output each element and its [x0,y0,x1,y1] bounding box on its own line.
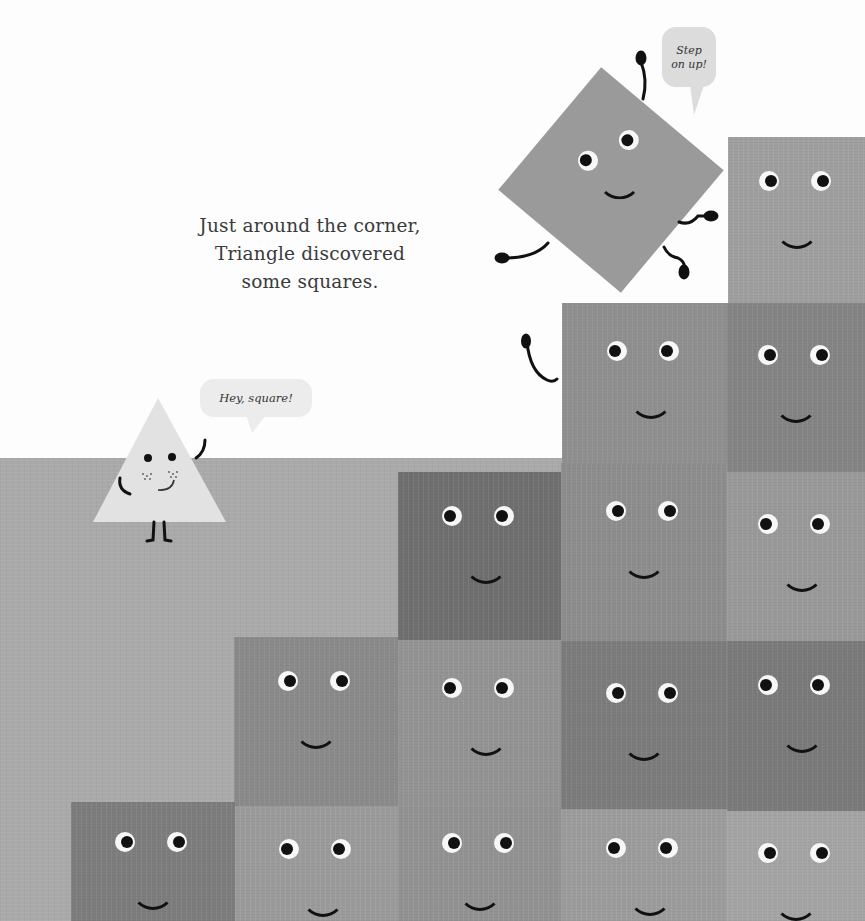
smile-icon [294,727,338,749]
eye-icon [658,683,678,703]
square-character-r2c2 [398,472,561,642]
arm-top [641,62,645,99]
reaching-square-arm [523,335,558,381]
smile-icon [131,888,175,910]
eye-icon [810,843,830,863]
eye-icon [442,833,462,853]
eye-icon [810,514,830,534]
eye-icon [758,843,778,863]
eye-icon [331,839,351,859]
smile-icon [301,895,345,917]
smile-icon [458,889,502,911]
eye-icon [494,678,514,698]
eye-icon [607,341,627,361]
square-character-r4c2 [398,808,561,921]
smile-icon [774,899,818,921]
square-character-r4c4 [727,811,865,921]
smile-icon [629,397,673,419]
eye-icon [759,171,779,191]
smile-icon [775,227,819,249]
square-character-r2c3 [561,463,727,643]
narration-line-3: some squares. [180,268,440,296]
eye-icon [330,671,350,691]
eye-icon [167,832,187,852]
speech-bubble-square: Step on up! [662,27,716,87]
eye-icon [811,171,831,191]
smile-icon [774,401,818,423]
eye-icon [810,675,830,695]
eye-icon [494,833,514,853]
eye-icon [115,832,135,852]
right-arm [196,440,205,458]
arm-left [505,243,548,258]
narration-line-1: Just around the corner, [180,212,440,240]
smile-icon [464,562,508,584]
eye-icon [606,838,626,858]
eye-icon [279,839,299,859]
square-character-r4c0 [71,802,235,921]
square-character-r3c4 [727,641,865,811]
smile-icon [622,557,666,579]
square-character-r1c4 [727,303,865,473]
square-character-r3c2 [398,640,561,808]
square-character-r3c1 [234,637,398,807]
smile-icon [780,731,824,753]
eye-icon [658,501,678,521]
eye-icon [606,683,626,703]
narration-text: Just around the corner, Triangle discove… [180,212,440,296]
square-character-r3c3 [561,641,727,809]
speech-text-triangle: Hey, square! [219,391,293,405]
eye-icon [810,345,830,365]
eye-icon [658,838,678,858]
eye-icon [442,678,462,698]
narration-line-2: Triangle discovered [180,240,440,268]
speech-text-square-line-2: on up! [662,58,716,72]
square-character-r0c4 [728,137,865,305]
smile-icon [464,734,508,756]
smile-icon [780,570,824,592]
eye-icon [606,501,626,521]
square-character-r4c3 [561,809,727,921]
leg-bottom [664,247,684,270]
eye-icon [758,514,778,534]
eye-icon [758,675,778,695]
speech-bubble-tail [246,415,266,433]
eye-icon [659,341,679,361]
eye-icon [442,506,462,526]
eye-icon [758,345,778,365]
eye-icon [615,126,643,154]
smile-icon [598,177,642,199]
speech-text-square-line-1: Step [662,44,716,58]
eye-icon [494,506,514,526]
picture-book-page: Just around the corner, Triangle discove… [0,0,865,921]
smile-icon [628,894,672,916]
square-character-r2c4 [727,472,865,642]
eye-icon [574,147,602,175]
speech-bubble-tail [690,85,704,115]
eye-icon [278,671,298,691]
speech-bubble-triangle: Hey, square! [200,379,312,417]
smile-icon [622,739,666,761]
square-character-r4c1 [235,806,398,921]
square-character-r1c3 [562,303,727,473]
